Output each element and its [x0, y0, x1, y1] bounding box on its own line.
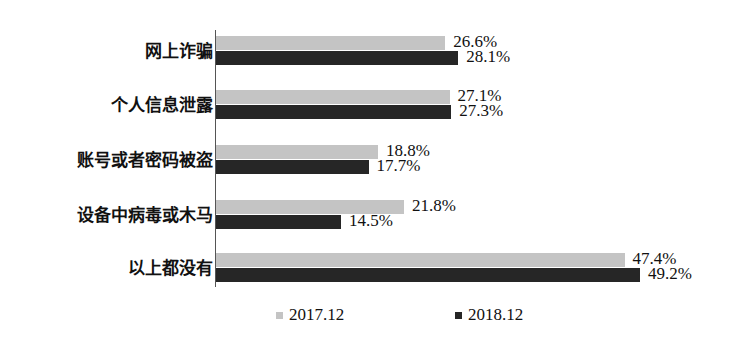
- value-label: 14.5%: [349, 213, 393, 229]
- bar-2018-12: [216, 160, 369, 174]
- value-label: 49.2%: [648, 266, 692, 282]
- category-label: 个人信息泄露: [111, 95, 213, 115]
- category-label: 网上诈骗: [145, 41, 213, 61]
- legend-label-2017: 2017.12: [289, 305, 344, 325]
- bar-2017-12: [216, 253, 625, 267]
- legend-label-2018: 2018.12: [468, 305, 523, 325]
- bar-2018-12: [216, 268, 640, 282]
- bar-2018-12: [216, 215, 341, 229]
- bar-2018-12: [216, 105, 451, 119]
- bar-2018-12: [216, 51, 458, 65]
- bar-2017-12: [216, 36, 445, 50]
- category-label: 设备中病毒或木马: [77, 205, 213, 225]
- bar-2017-12: [216, 145, 378, 159]
- legend-item-2017: 2017.12: [276, 305, 344, 325]
- value-label: 28.1%: [466, 49, 510, 65]
- value-label: 27.3%: [459, 103, 503, 119]
- legend-item-2018: 2018.12: [455, 305, 523, 325]
- value-label: 21.8%: [412, 198, 456, 214]
- legend-swatch-2018: [455, 312, 462, 319]
- bar-2017-12: [216, 90, 450, 104]
- category-label: 账号或者密码被盗: [77, 150, 213, 170]
- value-label: 17.7%: [377, 158, 421, 174]
- category-label: 以上都没有: [128, 258, 213, 278]
- legend-swatch-2017: [276, 312, 283, 319]
